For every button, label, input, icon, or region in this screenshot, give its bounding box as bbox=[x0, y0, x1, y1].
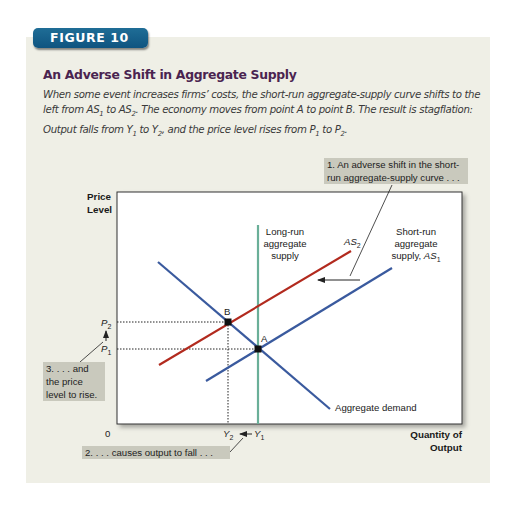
p2-tick-label: P2 bbox=[101, 317, 111, 333]
lras-label: Long-runaggregatesupply bbox=[262, 226, 308, 262]
note3-leader bbox=[80, 342, 103, 362]
x-axis-label: Quantity ofOutput bbox=[398, 428, 462, 454]
y-axis-label: PriceLevel bbox=[87, 190, 111, 216]
point-b-marker bbox=[225, 319, 232, 326]
ad-label: Aggregate demand bbox=[335, 402, 417, 414]
point-a-label: A bbox=[261, 333, 267, 345]
note-2: 2. . . . causes output to fall . . . bbox=[82, 446, 230, 459]
y2-tick-label: Y2 bbox=[223, 428, 233, 444]
origin-label: 0 bbox=[105, 428, 110, 440]
as2-label: AS2 bbox=[344, 236, 361, 252]
note-1: 1. An adverse shift in the short-run agg… bbox=[324, 158, 468, 184]
note-3: 3. . . . andthe pricelevel to rise. bbox=[43, 362, 105, 401]
as1-label: Short-runaggregatesupply, AS1 bbox=[388, 226, 444, 266]
p1-tick-label: P1 bbox=[101, 343, 111, 359]
point-a-marker bbox=[255, 346, 262, 353]
point-b-label: B bbox=[224, 306, 230, 318]
y1-tick-label: Y1 bbox=[254, 428, 264, 444]
